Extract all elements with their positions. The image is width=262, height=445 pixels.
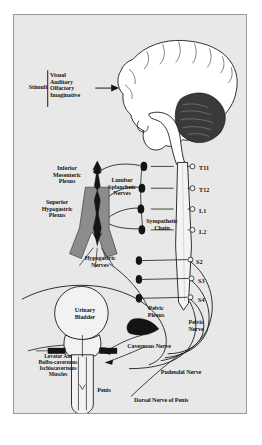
figure-panel: Stimuli Visual Auditory Olfactory Imagin…: [13, 14, 247, 414]
label-pudendal-nerve: Pudendal Nerve: [154, 369, 208, 376]
spinal-cord-group: [176, 162, 192, 310]
label-stimuli: Stimuli: [17, 84, 47, 91]
segment-label-t11: T11: [199, 164, 209, 171]
label-sympathetic-chain: Sympathetic Chain: [140, 218, 184, 231]
pelvic-plexus-shape: [127, 319, 159, 335]
label-dorsal-nerve-of-penis: Dorsal Nerve of Penis: [134, 397, 202, 404]
label-penis: Penis: [92, 387, 116, 394]
cerebellum: [175, 93, 225, 143]
label-perineal-muscles: Levator Ani Bulbo-cavernous Ischiocavern…: [24, 353, 92, 377]
segment-label-s3: S3: [198, 277, 205, 284]
label-superior-hypogastric-plexus: Superior Hypogastric Plexus: [32, 199, 82, 219]
stimulus-arrow: [95, 85, 119, 92]
label-pelvic-nerve: Pelvic Nerve: [180, 319, 212, 332]
label-urinary-bladder: Urinary Bladder: [63, 307, 107, 320]
brain-group: [118, 40, 237, 164]
label-hypogastric-nerves: Hypogastric Nerves: [76, 255, 124, 268]
genitourinary-group: [36, 286, 145, 413]
label-cavernous-nerve: Cavernous Nerve: [120, 343, 178, 350]
segment-label-s4: S4: [198, 296, 205, 303]
segment-label-t12: T12: [199, 186, 209, 193]
segment-label-l1: L1: [199, 207, 206, 214]
label-stimuli-list: Visual Auditory Olfactory Imaginative: [50, 72, 94, 98]
label-lumbar-splanchnic-nerves: Lumbar Splanchnic Nerves: [98, 177, 146, 197]
label-pelvic-plexus: Pelvic Plexus: [138, 305, 174, 318]
segment-label-s2: S2: [196, 258, 203, 265]
segment-label-l2: L2: [199, 228, 206, 235]
label-inferior-mesenteric-plexus: Inferior Mesenteric Plexus: [41, 165, 93, 185]
